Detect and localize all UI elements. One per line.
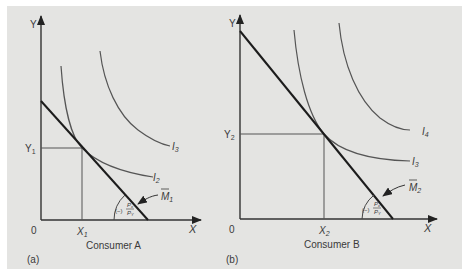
budget-line-m2 — [240, 31, 393, 219]
m1-pointer-arrow — [138, 195, 158, 204]
i2-label-a: I2 — [153, 172, 160, 184]
indifference-curve-i3-a — [100, 51, 170, 146]
slope-numerator-a: Px — [127, 202, 134, 209]
slope-denominator-b: PY — [374, 209, 381, 216]
budget-label-m2: M2 — [409, 182, 421, 194]
origin-label-b: 0 — [229, 224, 235, 235]
y2-label: Y2 — [224, 129, 235, 141]
m2-pointer-arrow — [383, 185, 405, 196]
y1-label: Y1 — [25, 143, 36, 155]
indifference-curve-i3-b — [294, 30, 410, 161]
panel-tag-a: (a) — [27, 254, 39, 265]
slope-denominator-a: PY — [127, 210, 134, 217]
slope-numerator-b: Px — [374, 201, 381, 208]
slope-sign-a: (−) — [115, 208, 123, 214]
panel-b: Y X 0 Y2 X2 I3 I4 M2 (−) Px PY Consumer … — [224, 15, 437, 265]
indifference-curve-i4-b — [339, 23, 410, 130]
budget-line-m1 — [41, 101, 148, 220]
i3-label-a: I3 — [172, 141, 179, 153]
y-axis-label-a: Y — [30, 19, 37, 30]
indifference-curve-diagram: Y X 0 Y1 X1 I2 I3 M1 (−) Px PY Consumer … — [0, 0, 462, 276]
slope-sign-b: (−) — [362, 207, 370, 213]
panel-a: Y X 0 Y1 X1 I2 I3 M1 (−) Px PY Consumer … — [25, 16, 201, 265]
i4-label-b: I4 — [422, 126, 429, 138]
x-axis-label-a: X — [188, 223, 197, 235]
panel-title-b: Consumer B — [304, 239, 360, 250]
budget-label-m1: M1 — [161, 191, 173, 203]
origin-label-a: 0 — [31, 225, 37, 236]
x2-label: X2 — [318, 225, 330, 237]
y-axis-label-b: Y — [229, 18, 236, 29]
x-axis-label-b: X — [423, 222, 432, 234]
panel-tag-b: (b) — [226, 254, 238, 265]
x1-label: X1 — [76, 226, 88, 238]
i3-label-b: I3 — [412, 156, 419, 168]
panel-title-a: Consumer A — [86, 240, 141, 251]
